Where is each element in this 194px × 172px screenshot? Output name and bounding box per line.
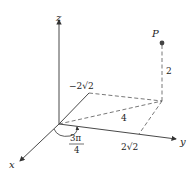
- y-coord-label: 2√2: [121, 142, 138, 152]
- dashed-to-y: [139, 101, 162, 134]
- x-coord-label: −2√2: [69, 81, 94, 91]
- point-p-label: P: [151, 28, 159, 39]
- dashed-radius: [59, 101, 162, 124]
- z-axis-label: z: [55, 12, 62, 23]
- angle-numerator: 3π: [70, 133, 81, 143]
- cylindrical-coordinates-diagram: z x y P 2 4 −2√2 2√2 3π 4: [0, 0, 194, 172]
- height-label: 2: [166, 66, 172, 76]
- x-axis-label: x: [9, 159, 15, 170]
- negative-x-segment: [59, 93, 89, 124]
- y-axis-label: y: [179, 136, 186, 147]
- point-p-dot: [160, 41, 165, 46]
- angle-denominator: 4: [74, 145, 79, 155]
- dashed-from-neg-x: [89, 93, 162, 101]
- x-axis: [20, 124, 59, 161]
- radius-label: 4: [121, 113, 127, 123]
